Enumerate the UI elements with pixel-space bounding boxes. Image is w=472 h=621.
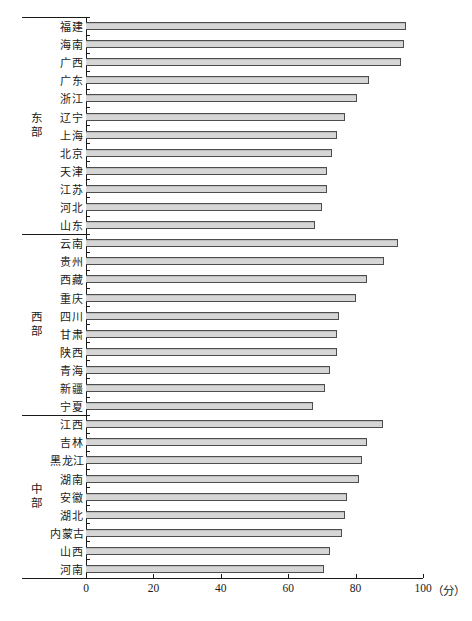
bar (86, 76, 369, 84)
bar-row: 河南 (50, 560, 423, 578)
bar-row: 海南 (50, 35, 423, 53)
bar (86, 257, 384, 265)
region-label-text: 东部 (28, 112, 44, 140)
bar (86, 511, 345, 519)
x-axis-tick-label: 0 (83, 582, 89, 594)
bar-row: 宁夏 (50, 397, 423, 415)
group-divider (22, 415, 90, 416)
bar (86, 420, 383, 428)
category-label: 黑龙江 (50, 452, 86, 468)
bar-row: 广西 (50, 53, 423, 71)
region-label-east: 东部 (22, 17, 50, 234)
bar (86, 167, 327, 175)
category-label: 吉林 (50, 434, 86, 450)
category-label: 广东 (50, 72, 86, 88)
bar-row: 辽宁 (50, 107, 423, 125)
bar-row: 西藏 (50, 270, 423, 288)
x-axis-unit-label: （分） (432, 582, 465, 598)
bar-track (86, 469, 423, 487)
bar (86, 312, 339, 320)
bar-row: 重庆 (50, 288, 423, 306)
bar-track (86, 162, 423, 180)
chart-page: 东部 福建海南广西广东浙江辽宁上海北京天津江苏河北山东 西部 云南贵州西藏重庆四… (0, 0, 472, 621)
category-label: 山东 (50, 217, 86, 233)
bar (86, 565, 324, 573)
bar-row: 山西 (50, 542, 423, 560)
category-label: 甘肃 (50, 326, 86, 342)
category-label: 河北 (50, 199, 86, 215)
category-label: 海南 (50, 36, 86, 52)
bar-track (86, 126, 423, 144)
region-group-west: 西部 云南贵州西藏重庆四川甘肃陕西青海新疆宁夏 (22, 234, 423, 415)
category-label: 青海 (50, 362, 86, 378)
bar-row: 天津 (50, 162, 423, 180)
category-label: 河南 (50, 561, 86, 577)
bar-rows-west: 云南贵州西藏重庆四川甘肃陕西青海新疆宁夏 (50, 234, 423, 415)
bar-track (86, 325, 423, 343)
category-label: 浙江 (50, 90, 86, 106)
bar (86, 456, 362, 464)
category-label: 上海 (50, 127, 86, 143)
bar (86, 366, 330, 374)
bar-track (86, 433, 423, 451)
bar-track (86, 270, 423, 288)
bar (86, 547, 330, 555)
bar-row: 福建 (50, 17, 423, 35)
bar (86, 113, 345, 121)
bar-row: 河北 (50, 198, 423, 216)
bar-track (86, 560, 423, 578)
bar-track (86, 397, 423, 415)
bar-track (86, 252, 423, 270)
bar-track (86, 180, 423, 198)
bar-rows-central: 江西吉林黑龙江湖南安徽湖北内蒙古山西河南 (50, 415, 423, 578)
bar-track (86, 71, 423, 89)
bar-row: 安徽 (50, 488, 423, 506)
bar-row: 云南 (50, 234, 423, 252)
category-label: 湖北 (50, 507, 86, 523)
region-label-text: 中部 (28, 483, 44, 511)
category-label: 重庆 (50, 290, 86, 306)
bar-track (86, 488, 423, 506)
category-label: 西藏 (50, 271, 86, 287)
bar-row: 广东 (50, 71, 423, 89)
bar-row: 江苏 (50, 180, 423, 198)
bar (86, 529, 342, 537)
region-label-west: 西部 (22, 234, 50, 415)
bar-row: 山东 (50, 216, 423, 234)
x-axis-line (22, 578, 423, 579)
bar (86, 203, 322, 211)
category-label: 江西 (50, 416, 86, 432)
bar-track (86, 234, 423, 252)
bar-chart: 东部 福建海南广西广东浙江辽宁上海北京天津江苏河北山东 西部 云南贵州西藏重庆四… (22, 17, 423, 578)
bar (86, 493, 347, 501)
bar-track (86, 379, 423, 397)
category-label: 内蒙古 (50, 525, 86, 541)
bar-track (86, 415, 423, 433)
x-axis-tick-label: 60 (282, 582, 294, 594)
bar-track (86, 89, 423, 107)
x-axis-tick (221, 574, 222, 578)
bar-row: 贵州 (50, 252, 423, 270)
bar (86, 40, 404, 48)
bar (86, 131, 337, 139)
bar-row: 甘肃 (50, 325, 423, 343)
bar (86, 221, 315, 229)
x-axis-tick-label: 100 (414, 582, 431, 594)
bar-row: 新疆 (50, 379, 423, 397)
bar-rows-east: 福建海南广西广东浙江辽宁上海北京天津江苏河北山东 (50, 17, 423, 234)
category-label: 云南 (50, 235, 86, 251)
bar-row: 黑龙江 (50, 451, 423, 469)
bar-track (86, 506, 423, 524)
bar (86, 384, 325, 392)
bar-row: 北京 (50, 144, 423, 162)
bar (86, 58, 401, 66)
x-axis-tick (86, 574, 87, 578)
bar (86, 294, 356, 302)
bar-track (86, 542, 423, 560)
bar-row: 青海 (50, 361, 423, 379)
bar-row: 湖南 (50, 469, 423, 487)
category-label: 辽宁 (50, 109, 86, 125)
category-label: 安徽 (50, 489, 86, 505)
bar-track (86, 524, 423, 542)
bar-row: 浙江 (50, 89, 423, 107)
